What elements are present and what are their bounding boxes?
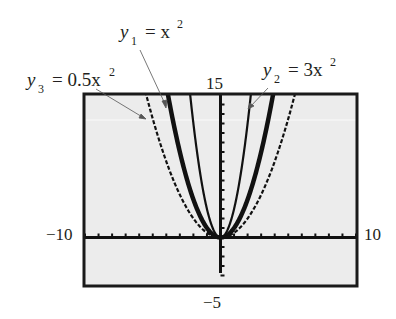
y2-superscript: 2 (330, 55, 336, 69)
y3-rhs: = 0.5x (52, 69, 101, 90)
y3-subscript: 3 (38, 82, 44, 96)
xmin-label: −10 (46, 225, 73, 244)
y2-subscript: 2 (274, 72, 280, 86)
series-label-y3: y 3 = 0.5x 2 (25, 65, 115, 96)
xmax-label: 10 (364, 225, 381, 244)
y2-var: y (261, 59, 272, 80)
y2-rhs: = 3x (288, 59, 323, 80)
y3-superscript: 2 (109, 65, 115, 79)
graphing-calculator-chart: −10 10 15 −5 y 1 = x 2 y 2 = 3x 2 y 3 = … (0, 0, 396, 319)
series-label-y2: y 2 = 3x 2 (261, 55, 336, 86)
y1-superscript: 2 (177, 17, 183, 31)
ymax-label: 15 (206, 74, 223, 93)
y1-subscript: 1 (131, 34, 137, 48)
y1-var: y (118, 21, 129, 42)
series-label-y1: y 1 = x 2 (118, 17, 183, 48)
y1-rhs: = x (145, 21, 170, 42)
ymin-label: −5 (203, 293, 221, 312)
y3-var: y (25, 69, 36, 90)
